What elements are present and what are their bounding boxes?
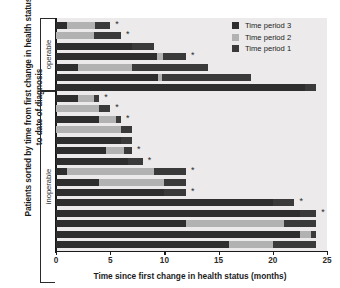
bar-segment-period3 xyxy=(56,241,229,248)
significance-asterisk: * xyxy=(148,157,152,164)
bar-row: * xyxy=(0,168,340,175)
bar-row: * xyxy=(0,95,340,102)
bar-segment-period1 xyxy=(116,116,121,123)
chart-container: Patients sorted by time from first chang… xyxy=(0,0,340,288)
bar-row: * xyxy=(0,22,340,29)
bar-row xyxy=(0,43,340,50)
x-tick-label-20: 20 xyxy=(268,256,277,265)
bar-segment-period2 xyxy=(99,179,164,186)
x-tick-label-10: 10 xyxy=(160,256,169,265)
bar-segment-period1 xyxy=(305,84,316,91)
significance-asterisk: * xyxy=(126,115,130,122)
bar-segment-period3 xyxy=(56,210,300,217)
bar-row xyxy=(0,126,340,133)
bar-row xyxy=(0,241,340,248)
bar-segment-period2 xyxy=(300,231,311,238)
significance-asterisk: * xyxy=(137,146,141,153)
bar-segment-period3 xyxy=(56,168,67,175)
bar-segment-period2 xyxy=(56,126,121,133)
bar-segment-period3 xyxy=(56,116,99,123)
bar-row xyxy=(0,84,340,91)
bar-segment-period2 xyxy=(78,64,132,71)
bar-segment-period3 xyxy=(56,43,132,50)
bar-segment-period1 xyxy=(164,179,186,186)
bar-segment-period3 xyxy=(56,53,157,60)
bar-segment-period3 xyxy=(56,147,106,154)
bar-row: * xyxy=(0,199,340,206)
bar-segment-period1 xyxy=(124,147,132,154)
significance-asterisk: * xyxy=(299,198,303,205)
bar-row xyxy=(0,74,340,81)
x-tick-0 xyxy=(56,251,57,255)
bar-row: * xyxy=(0,158,340,165)
bar-segment-period1 xyxy=(273,199,295,206)
bar-segment-period1 xyxy=(284,220,317,227)
bar-segment-period1 xyxy=(95,22,110,29)
bar-segment-period2 xyxy=(67,22,95,29)
bar-segment-period1 xyxy=(164,189,186,196)
bar-segment-period3 xyxy=(56,199,273,206)
significance-asterisk: * xyxy=(126,31,130,38)
significance-asterisk: * xyxy=(321,209,325,216)
bar-row xyxy=(0,231,340,238)
bar-segment-period2 xyxy=(56,105,99,112)
bar-segment-period3 xyxy=(56,95,78,102)
bar-segment-period2 xyxy=(106,147,124,154)
bar-segment-period1 xyxy=(94,32,121,39)
bar-segment-period1 xyxy=(163,53,186,60)
bar-segment-period1 xyxy=(273,241,316,248)
bar-segment-period2 xyxy=(157,53,164,60)
bar-segment-period2 xyxy=(99,116,115,123)
x-tick-15 xyxy=(219,251,220,255)
bar-segment-period1 xyxy=(121,126,132,133)
x-tick-20 xyxy=(273,251,274,255)
x-tick-label-5: 5 xyxy=(108,256,113,265)
bar-row: * xyxy=(0,210,340,217)
bar-row: * xyxy=(0,53,340,60)
bar-segment-period3 xyxy=(56,231,300,238)
bar-segment-period1 xyxy=(128,158,143,165)
significance-asterisk: * xyxy=(191,167,195,174)
bar-segment-period3 xyxy=(56,189,164,196)
bar-segment-period1 xyxy=(300,210,316,217)
x-tick-10 xyxy=(164,251,165,255)
bar-row: * xyxy=(0,147,340,154)
bar-segment-period3 xyxy=(56,74,158,81)
x-axis-label: Time since first change in health status… xyxy=(0,271,340,281)
bar-segment-period1 xyxy=(311,231,316,238)
bar-row xyxy=(0,137,340,144)
bar-segment-period2 xyxy=(78,95,94,102)
significance-asterisk: * xyxy=(104,94,108,101)
bar-segment-period1 xyxy=(121,137,132,144)
bar-segment-period1 xyxy=(99,105,110,112)
x-tick-label-0: 0 xyxy=(54,256,59,265)
bar-segment-period3 xyxy=(56,84,305,91)
x-tick-label-15: 15 xyxy=(214,256,223,265)
bar-segment-period3 xyxy=(56,220,186,227)
bar-row xyxy=(0,179,340,186)
bar-row: * xyxy=(0,105,340,112)
bar-segment-period1 xyxy=(132,43,154,50)
bar-segment-period1 xyxy=(94,95,99,102)
bar-segment-period1 xyxy=(132,64,208,71)
bar-row: * xyxy=(0,32,340,39)
bar-segment-period2 xyxy=(229,241,272,248)
significance-asterisk: * xyxy=(191,188,195,195)
x-tick-25 xyxy=(327,251,328,255)
bar-segment-period3 xyxy=(56,64,78,71)
bar-segment-period3 xyxy=(56,22,67,29)
x-axis-line xyxy=(55,251,327,252)
bar-segment-period3 xyxy=(56,158,128,165)
bar-row: * xyxy=(0,189,340,196)
bar-segment-period3 xyxy=(56,179,99,186)
bar-row xyxy=(0,64,340,71)
bar-segment-period1 xyxy=(154,168,187,175)
bar-segment-period3 xyxy=(56,137,121,144)
bar-row xyxy=(0,220,340,227)
bar-segment-period1 xyxy=(162,74,251,81)
bar-segment-period2 xyxy=(56,32,94,39)
x-tick-label-25: 25 xyxy=(322,256,331,265)
bar-row: * xyxy=(0,116,340,123)
bar-segment-period2 xyxy=(67,168,154,175)
significance-asterisk: * xyxy=(191,52,195,59)
